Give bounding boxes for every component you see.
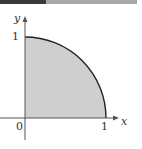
x-axis-arrow-icon xyxy=(113,116,119,121)
y-axis-label: y xyxy=(14,13,20,24)
y-axis-arrow-icon xyxy=(23,16,28,22)
y-tick-label: 1 xyxy=(12,31,19,42)
shaded-region xyxy=(25,37,106,118)
x-axis-label: x xyxy=(121,116,127,127)
x-tick-label: 1 xyxy=(101,121,108,132)
origin-label: 0 xyxy=(16,121,23,132)
